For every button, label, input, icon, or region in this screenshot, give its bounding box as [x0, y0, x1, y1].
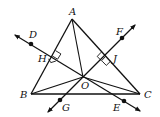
- segment-ao: [72, 19, 83, 77]
- label-c: C: [144, 89, 152, 100]
- label-f: F: [115, 26, 124, 37]
- label-h: H: [37, 53, 47, 64]
- geometry-diagram: A B C O H J D E F G: [0, 0, 160, 117]
- label-g: G: [62, 102, 70, 113]
- point-d: [29, 42, 34, 47]
- label-d: D: [28, 29, 37, 40]
- label-e: E: [112, 102, 121, 113]
- label-j: J: [111, 53, 118, 64]
- point-e: [122, 99, 127, 104]
- label-o: O: [81, 80, 89, 91]
- label-b: B: [19, 89, 27, 100]
- label-a: A: [68, 6, 76, 17]
